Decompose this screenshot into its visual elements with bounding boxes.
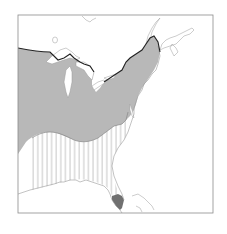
cuba-coast-2 bbox=[136, 206, 142, 212]
lake-nipigon bbox=[53, 37, 58, 43]
cuba-coast bbox=[132, 194, 154, 210]
range-map bbox=[0, 0, 227, 234]
maritimes-coast bbox=[160, 28, 194, 50]
hudson-bay-fragment bbox=[82, 16, 96, 22]
nova-scotia bbox=[170, 44, 178, 56]
